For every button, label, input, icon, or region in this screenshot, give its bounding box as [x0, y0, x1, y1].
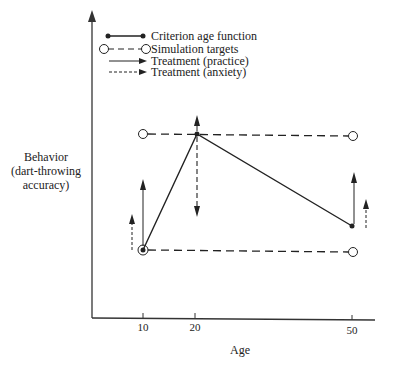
criterion-age-function — [141, 132, 355, 253]
legend-criterion-symbol — [106, 34, 146, 39]
legend-simulation-symbol — [100, 45, 151, 54]
anxiety-arrow-age50 — [363, 199, 369, 228]
legend-anxiety-symbol — [109, 69, 147, 75]
practice-arrow-age10 — [140, 179, 146, 246]
simulation-target-upper — [139, 130, 358, 141]
x-tick-50: 50 — [347, 324, 358, 336]
x-tick-20: 20 — [190, 321, 201, 333]
x-axis-label: Age — [230, 343, 250, 358]
practice-arrow-age50 — [351, 172, 357, 224]
x-axis — [92, 313, 375, 320]
anxiety-arrow-age10 — [129, 214, 135, 250]
simulation-target-lower — [138, 245, 358, 257]
legend-practice-symbol — [109, 58, 147, 64]
practice-arrow-age20 — [194, 115, 200, 131]
legend — [100, 34, 151, 76]
legend-label-anxiety: Treatment (anxiety) — [151, 66, 246, 79]
y-axis-label: Behavior (dart-throwing accuracy) — [0, 150, 92, 192]
anxiety-arrow-age20 — [194, 137, 200, 217]
x-tick-10: 10 — [138, 321, 149, 333]
